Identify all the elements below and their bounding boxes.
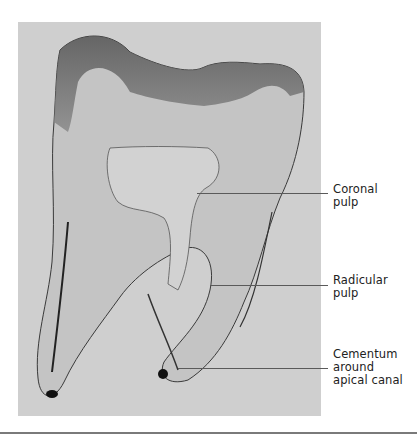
- tooth-illustration: [18, 22, 321, 416]
- label-radicular-pulp: Radicular pulp: [333, 274, 388, 300]
- leader-line-coronal-pulp: [197, 193, 328, 194]
- label-cementum-apical-canal: Cementum around apical canal: [333, 348, 403, 387]
- tooth-section-photo: [18, 22, 321, 416]
- bottom-rule: [0, 432, 417, 434]
- leader-line-cementum: [178, 368, 328, 369]
- figure: Coronal pulp Radicular pulp Cementum aro…: [0, 0, 417, 436]
- label-coronal-pulp: Coronal pulp: [333, 183, 378, 209]
- leader-line-radicular-pulp: [210, 285, 328, 286]
